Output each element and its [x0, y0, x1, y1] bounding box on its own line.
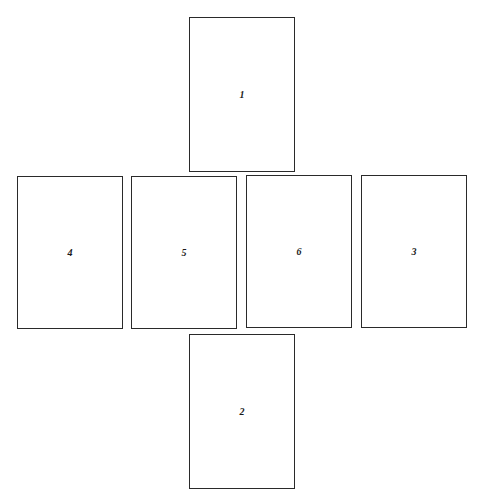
panel-2: 2	[189, 334, 295, 489]
panel-5: 5	[131, 176, 237, 329]
panel-label: 5	[182, 247, 187, 258]
panel-1: 1	[189, 17, 295, 172]
panel-label: 1	[240, 89, 245, 100]
panel-label: 3	[412, 246, 417, 257]
panel-4: 4	[17, 176, 123, 329]
panel-label: 2	[240, 406, 245, 417]
panel-label: 4	[68, 247, 73, 258]
panel-label: 6	[297, 246, 302, 257]
panel-6: 6	[246, 175, 352, 328]
panel-3: 3	[361, 175, 467, 328]
